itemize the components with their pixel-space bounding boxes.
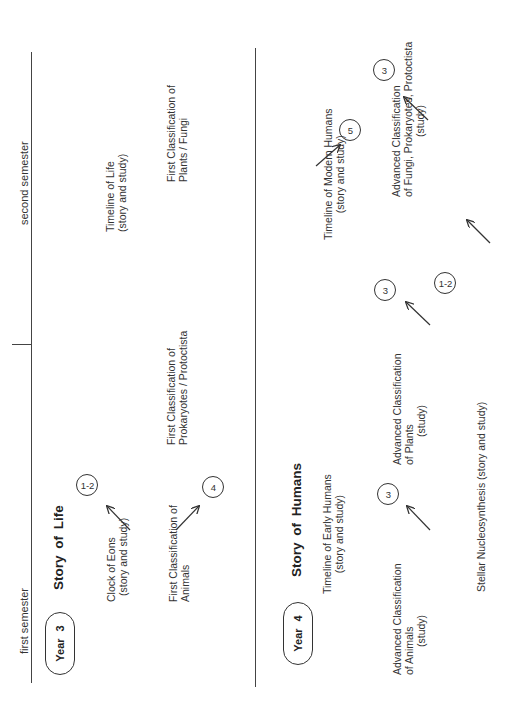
arrow-icon (316, 145, 340, 166)
arrow-icon (107, 506, 130, 530)
rotated-page: first semester second semester Year 3 St… (0, 0, 514, 722)
arrow-icon (406, 302, 430, 325)
arrow-icon (176, 506, 199, 530)
arrow-icon (407, 506, 430, 530)
arrow-icon (404, 97, 428, 120)
arrows-layer (0, 0, 514, 722)
arrow-icon (467, 220, 490, 243)
